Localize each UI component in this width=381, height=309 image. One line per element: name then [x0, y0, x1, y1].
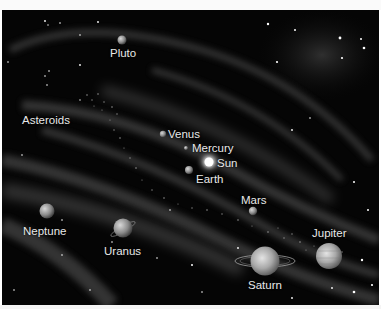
neptune-planet	[40, 204, 55, 219]
venus-planet	[160, 131, 166, 137]
space-background-graphic	[2, 10, 379, 305]
solar-system-illustration: Pluto Asteroids Venus Mercury Sun Earth …	[2, 10, 379, 305]
sun-core	[205, 158, 214, 167]
pluto-planet	[118, 36, 127, 45]
mercury-planet	[184, 146, 188, 150]
pluto-label: Pluto	[110, 47, 136, 59]
earth-planet	[185, 166, 193, 174]
uranus-label: Uranus	[104, 245, 141, 257]
jupiter-label: Jupiter	[312, 227, 347, 239]
mars-planet	[249, 207, 257, 215]
saturn-label: Saturn	[248, 279, 282, 291]
bottom-border-strip	[0, 305, 381, 309]
top-border-strip	[0, 0, 381, 10]
neptune-label: Neptune	[23, 225, 66, 237]
mars-label: Mars	[241, 194, 267, 206]
jupiter-planet	[316, 243, 342, 269]
uranus-planet	[114, 219, 133, 238]
mercury-label: Mercury	[192, 142, 234, 154]
asteroids-label: Asteroids	[22, 114, 70, 126]
saturn-planet	[251, 247, 280, 276]
earth-label: Earth	[196, 173, 224, 185]
sun-label: Sun	[217, 157, 237, 169]
venus-label: Venus	[168, 128, 200, 140]
